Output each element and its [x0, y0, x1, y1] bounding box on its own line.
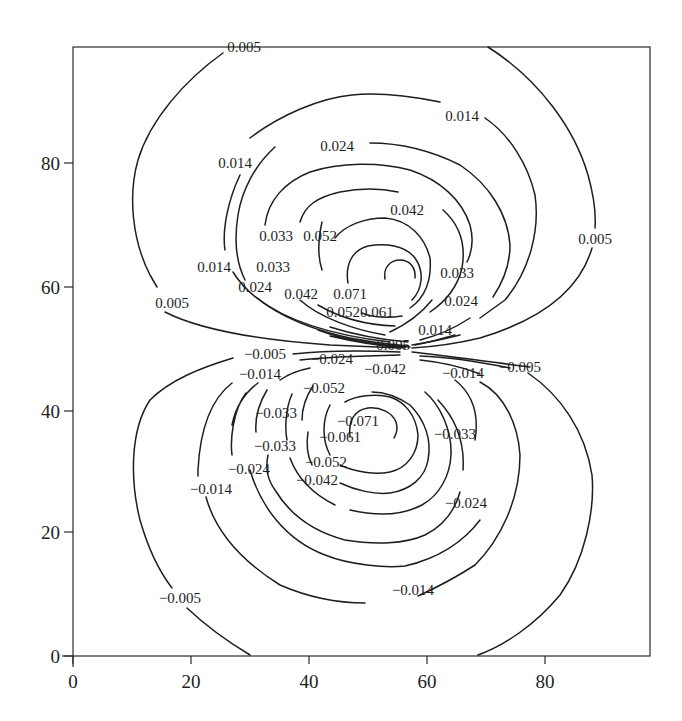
contour-label: 0.005: [578, 231, 612, 247]
negative-contours: [133, 351, 592, 655]
contour-label: 0.033: [440, 265, 474, 281]
x-tick-label: 40: [300, 671, 319, 692]
contour-label: 0.014: [218, 155, 252, 171]
contour-0.005-right: [412, 47, 595, 348]
contour-label: −0.033: [255, 405, 297, 421]
contour-label: 0.005: [376, 337, 410, 353]
contour-label: −0.071: [337, 413, 379, 429]
contour-0.071: [385, 260, 415, 279]
contour-label: −0.014: [239, 366, 282, 382]
contour-label: −0.014: [190, 481, 233, 497]
contour-label: 0.042: [284, 286, 318, 302]
contour-label: −0.024: [311, 351, 354, 367]
contour-label: 0.042: [390, 202, 424, 218]
y-tick-label: 80: [41, 153, 60, 174]
x-tick-label: 80: [536, 671, 555, 692]
contour-label: 0.024: [320, 138, 354, 154]
x-tick-label: 60: [418, 671, 437, 692]
contour-chart: 0 20 40 60 80 0 20 40 60 80: [0, 0, 682, 721]
contour-label: −0.024: [445, 495, 488, 511]
contour-label: −0.061: [319, 429, 361, 445]
contour-neg0.042: [286, 392, 451, 514]
contour-label: 0.033: [259, 228, 293, 244]
contour-label: −0.042: [364, 361, 406, 377]
contour-label: −0.042: [296, 472, 338, 488]
contour-label: 0.014: [418, 322, 452, 338]
contour-neg0.033: [256, 368, 463, 543]
y-tick-label: 0: [51, 646, 61, 667]
contour-label: 0.005: [227, 39, 261, 55]
x-axis: 0 20 40 60 80: [62, 656, 555, 692]
contour-neg0.005-left: [133, 358, 250, 655]
contour-labels: 0.005 0.014 0.024 0.014 0.042 0.005 0.03…: [155, 39, 612, 606]
contour-label: 0.071: [333, 286, 367, 302]
y-tick-label: 40: [41, 401, 60, 422]
contour-neg0.005-right: [478, 373, 593, 655]
y-axis: 0 20 40 60 80: [41, 153, 73, 667]
contour-label: −0.014: [442, 365, 485, 381]
contour-label: −0.005: [499, 359, 541, 375]
y-tick-label: 60: [41, 277, 60, 298]
x-tick-label: 0: [68, 671, 78, 692]
contour-label: 0.014: [197, 259, 231, 275]
contour-label: 0.033: [256, 259, 290, 275]
contour-label: −0.014: [392, 582, 435, 598]
contour-label: 0.024: [238, 279, 272, 295]
contour-label: 0.052: [303, 228, 337, 244]
contour-label: −0.052: [303, 380, 345, 396]
contour-label: −0.005: [244, 346, 286, 362]
contour-label: 0.014: [445, 108, 479, 124]
x-tick-label: 20: [182, 671, 201, 692]
contour-label: −0.052: [305, 454, 347, 470]
positive-contours: [133, 47, 596, 348]
contour-label: −0.005: [159, 590, 201, 606]
contour-label: −0.033: [254, 438, 296, 454]
y-tick-label: 20: [41, 522, 60, 543]
contour-label: −0.024: [228, 461, 271, 477]
contour-label: 0.0520.061: [326, 304, 394, 320]
contour-label: 0.005: [155, 295, 189, 311]
contour-label: −0.033: [434, 426, 476, 442]
contour-label: 0.024: [444, 293, 478, 309]
